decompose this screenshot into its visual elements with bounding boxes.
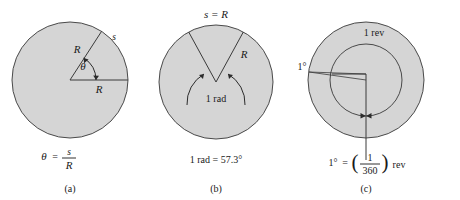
equation-a-denominator: R — [65, 159, 73, 171]
equation-c-unit: rev — [393, 159, 406, 170]
panel-a: θ R R s θ = s R (a) — [0, 0, 152, 200]
equation-c-lhs: 1° — [329, 157, 338, 168]
revolution-label-c: 1 rev — [364, 27, 384, 38]
equation-a-numerator: s — [67, 147, 71, 157]
panel-c: 1 rev 1° 1° = ( 1 360 ) rev (c) — [292, 0, 460, 200]
angle-label-a: θ — [80, 60, 86, 72]
arc-length-label-a: s — [112, 32, 116, 42]
equation-c-numerator: 1 — [368, 152, 373, 163]
equation-a-equals: = — [52, 151, 58, 162]
radius-slant-label-a: R — [73, 43, 81, 55]
caption-a: (a) — [64, 183, 75, 195]
arc-equals-radius-label-b: s = R — [204, 8, 228, 20]
degree-label-c: 1° — [298, 61, 307, 72]
physics-figure-angular-measure: θ R R s θ = s R (a) s = R R — [0, 0, 460, 200]
equation-a-lhs: θ — [41, 150, 47, 162]
caption-b: (b) — [210, 183, 222, 195]
radius-horizontal-label-a: R — [95, 83, 103, 95]
equation-c: 1° = ( 1 360 ) rev — [329, 150, 406, 176]
caption-c: (c) — [360, 183, 371, 195]
equation-a: θ = s R — [41, 147, 76, 171]
equation-b: 1 rad = 57.3° — [190, 154, 242, 165]
equation-c-paren-close: ) — [382, 150, 389, 174]
equation-c-equals: = — [342, 157, 348, 168]
radius-label-b: R — [240, 48, 248, 60]
equation-c-paren-open: ( — [352, 150, 359, 174]
equation-c-denominator: 360 — [363, 165, 378, 176]
angle-label-b: 1 rad — [206, 93, 226, 104]
panel-b: s = R R 1 rad 1 rad = 57.3° (b) — [148, 0, 298, 200]
